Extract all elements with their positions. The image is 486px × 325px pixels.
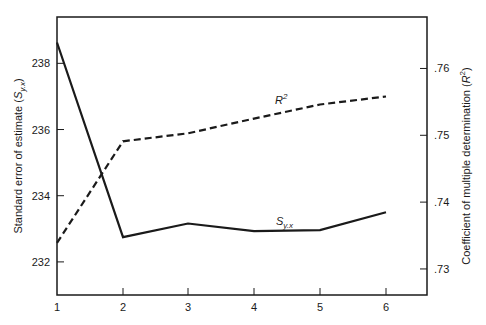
- right-y-tick-label: .75: [434, 129, 449, 141]
- left-y-tick-label: 234: [32, 190, 50, 202]
- r-squared-line: [57, 97, 386, 243]
- left-y-axis-title: Standard error of estimate (Sy.x): [12, 78, 27, 233]
- x-tick-label: 5: [317, 301, 323, 313]
- x-tick-label: 2: [120, 301, 126, 313]
- series-lines: [57, 43, 386, 243]
- right-y-tick-label: .76: [434, 62, 449, 74]
- dual-axis-line-chart: 123456 232234236238 .73.74.75.76 R2Sy.x …: [0, 0, 486, 325]
- right-y-tick-label: .74: [434, 196, 449, 208]
- x-tick-label: 3: [185, 301, 191, 313]
- r-squared-label: R2: [275, 92, 288, 106]
- x-tick-label: 6: [383, 301, 389, 313]
- left-y-tick-label: 238: [32, 57, 50, 69]
- x-axis-ticks: 123456: [54, 288, 389, 313]
- standard-error-label: Sy.x: [276, 215, 294, 230]
- right-y-axis-ticks: .73.74.75.76: [420, 62, 449, 274]
- x-tick-label: 1: [54, 301, 60, 313]
- left-y-tick-label: 236: [32, 124, 50, 136]
- axis-titles: Standard error of estimate (Sy.x)Coeffic…: [12, 67, 472, 264]
- right-y-axis-title: Coefficient of multiple determination (R…: [458, 67, 472, 264]
- right-y-tick-label: .73: [434, 263, 449, 275]
- left-y-tick-label: 232: [32, 256, 50, 268]
- standard-error-line: [57, 43, 386, 238]
- x-tick-label: 4: [251, 301, 257, 313]
- left-y-axis-ticks: 232234236238: [32, 57, 64, 268]
